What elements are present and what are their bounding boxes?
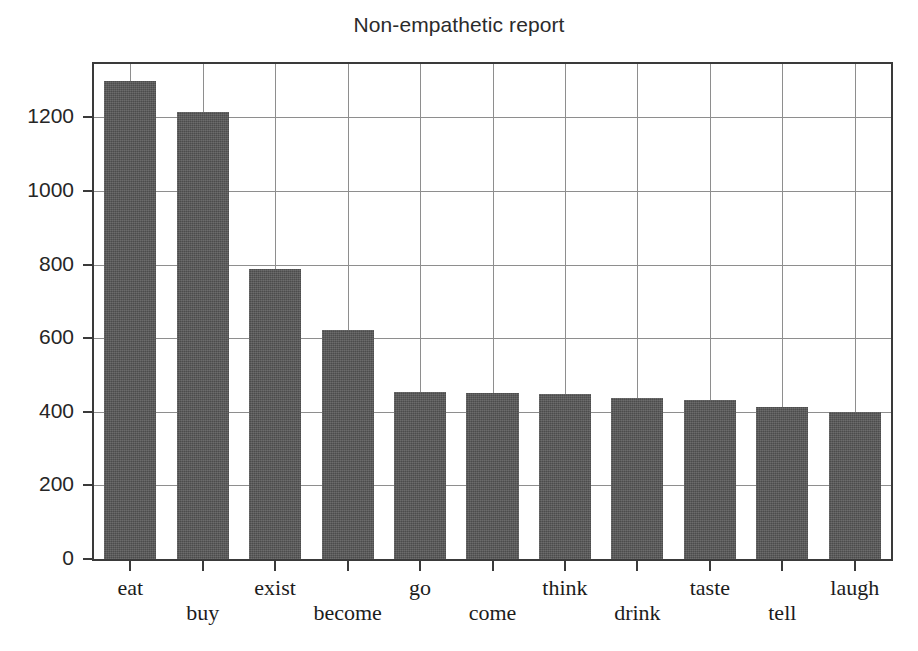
y-axis-tick-label: 0 — [0, 546, 74, 570]
bar-chart-figure: Non-empathetic report 020040060080010001… — [0, 0, 918, 651]
x-axis-tick-mark — [129, 561, 131, 571]
y-axis-tick-label: 200 — [0, 472, 74, 496]
x-axis-tick-label: eat — [117, 575, 143, 601]
bar — [104, 81, 156, 559]
x-axis-tick-mark — [274, 561, 276, 571]
y-axis-tick-mark — [83, 264, 92, 266]
x-axis-tick-mark — [709, 561, 711, 571]
y-axis-tick-label: 1000 — [0, 178, 74, 202]
x-axis-tick-label: tell — [768, 600, 796, 626]
x-axis-tick-label: exist — [254, 575, 296, 601]
y-axis-tick-mark — [83, 190, 92, 192]
y-axis-tick-mark — [83, 116, 92, 118]
y-axis-tick-mark — [83, 558, 92, 560]
y-axis-tick-mark — [83, 484, 92, 486]
bar — [611, 398, 663, 559]
x-axis-tick-label: go — [409, 575, 431, 601]
x-axis-tick-label: become — [313, 600, 381, 626]
bar — [466, 393, 518, 559]
x-axis-tick-label: buy — [186, 600, 219, 626]
y-axis-tick-label: 400 — [0, 399, 74, 423]
bar — [394, 392, 446, 559]
bar — [539, 394, 591, 559]
bar — [249, 269, 301, 559]
plot-inner — [94, 64, 891, 559]
x-axis-tick-label: drink — [614, 600, 660, 626]
x-axis-tick-mark — [492, 561, 494, 571]
bar — [177, 112, 229, 559]
x-axis-tick-mark — [564, 561, 566, 571]
y-axis-tick-mark — [83, 337, 92, 339]
y-axis-tick-label: 600 — [0, 325, 74, 349]
x-axis-tick-label: laugh — [830, 575, 879, 601]
x-axis-tick-mark — [854, 561, 856, 571]
x-axis-tick-mark — [202, 561, 204, 571]
y-axis-tick-mark — [83, 411, 92, 413]
x-axis-tick-mark — [781, 561, 783, 571]
x-axis-tick-label: taste — [690, 575, 730, 601]
x-axis-tick-mark — [419, 561, 421, 571]
bar — [756, 407, 808, 559]
y-axis-tick-label: 800 — [0, 252, 74, 276]
x-axis-tick-mark — [347, 561, 349, 571]
bar — [829, 412, 881, 559]
x-axis-tick-mark — [636, 561, 638, 571]
x-axis-tick-label: come — [469, 600, 517, 626]
bar — [322, 330, 374, 559]
y-axis-tick-label: 1200 — [0, 104, 74, 128]
x-axis-tick-label: think — [542, 575, 587, 601]
chart-title: Non-empathetic report — [0, 13, 918, 37]
plot-area — [92, 62, 893, 561]
bar — [684, 400, 736, 559]
